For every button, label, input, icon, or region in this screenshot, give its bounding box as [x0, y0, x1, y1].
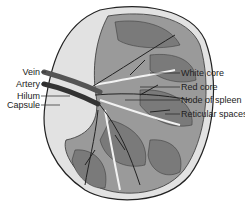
label-artery: Artery: [0, 79, 40, 89]
label-red-core: Red core: [181, 82, 218, 92]
label-vein: Vein: [0, 67, 40, 77]
label-node-of-spleen: Node of spleen: [181, 95, 242, 105]
label-reticular-spaces: Reticular spaces: [181, 109, 245, 119]
label-white-core: White core: [181, 68, 224, 78]
label-capsule: Capsule: [0, 100, 40, 110]
